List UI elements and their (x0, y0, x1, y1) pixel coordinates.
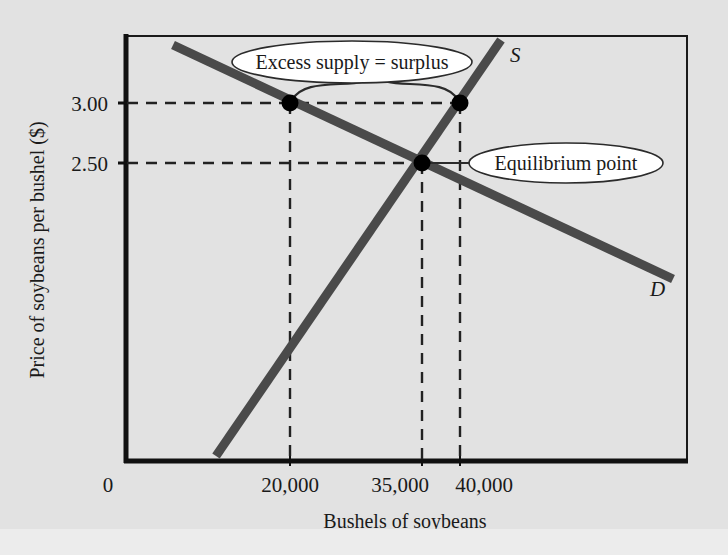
marker-quantity-demanded (282, 95, 299, 112)
excess-supply-callout-label: Excess supply = surplus (256, 51, 449, 74)
equilibrium-callout-label: Equilibrium point (495, 152, 638, 175)
x-tick-label-20000: 20,000 (261, 473, 319, 497)
y-axis-title: Price of soybeans per bushel ($) (26, 121, 49, 378)
x-axis-title: Bushels of soybeans (323, 510, 487, 533)
supply-demand-figure: S D Excess supply = surplus Equilibrium … (0, 0, 728, 555)
y-tick-label-3.00: 3.00 (71, 92, 108, 116)
x-tick-label-40000: 40,000 (455, 473, 513, 497)
supply-curve-label: S (510, 43, 521, 67)
x-origin-label: 0 (103, 473, 114, 497)
demand-curve-label: D (649, 277, 665, 301)
supply-demand-chart: S D Excess supply = surplus Equilibrium … (0, 0, 728, 555)
excess-supply-callout[interactable]: Excess supply = surplus (232, 41, 472, 83)
marker-equilibrium (414, 155, 431, 172)
x-tick-label-35000: 35,000 (371, 473, 429, 497)
marker-quantity-supplied (452, 95, 469, 112)
y-tick-label-2.50: 2.50 (71, 152, 108, 176)
